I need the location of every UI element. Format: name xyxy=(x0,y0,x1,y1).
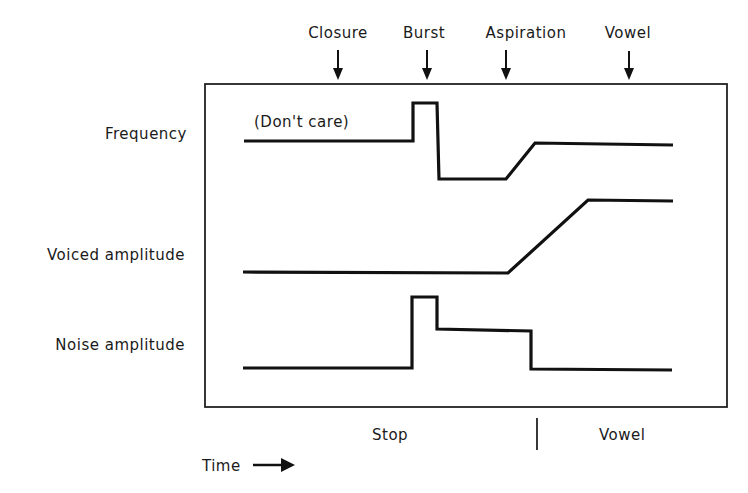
event-arrows xyxy=(333,50,634,80)
time-arrow-icon xyxy=(253,458,295,472)
arrow-down-icon-vowel xyxy=(624,51,634,80)
frequency-trace xyxy=(244,103,673,179)
arrow-down-icon-closure xyxy=(333,50,343,80)
arrow-down-icon-burst xyxy=(422,50,432,80)
waveform-diagram xyxy=(0,0,748,493)
voiced-amplitude-trace xyxy=(243,200,673,273)
noise-amplitude-trace xyxy=(243,297,672,370)
arrow-down-icon-aspiration xyxy=(501,50,511,80)
diagram-frame xyxy=(205,84,727,407)
